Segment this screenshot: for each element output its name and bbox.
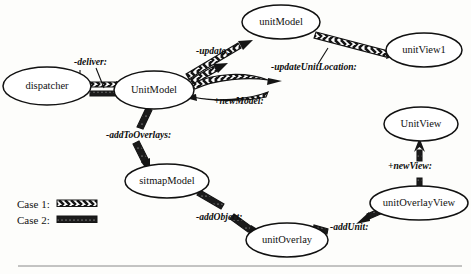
node-dispatcher-label: dispatcher bbox=[25, 80, 69, 91]
node-unitoverlayview-label: unitOverlayView bbox=[383, 197, 456, 208]
legend-item-case-1-label: Case 1: bbox=[17, 198, 50, 210]
edge-label-addobject: -addObject: bbox=[196, 211, 242, 222]
edge-label-newview: +newView: bbox=[388, 160, 432, 171]
node-sitmapmodel[interactable]: sitmapModel bbox=[125, 164, 209, 198]
node-unitview[interactable]: UnitView bbox=[384, 107, 458, 141]
interaction-diagram: dispatcher UnitModel unitModel unitView1… bbox=[0, 0, 471, 274]
legend-swatch-case-1 bbox=[57, 200, 97, 207]
legend-item-case-1: Case 1: bbox=[17, 198, 97, 210]
edge-label-deliver: -deliver: bbox=[74, 56, 107, 67]
node-unitoverlay[interactable]: unitOverlay bbox=[246, 223, 328, 257]
node-unitoverlay-label: unitOverlay bbox=[262, 234, 313, 245]
node-unitmodel-class-label: UnitModel bbox=[131, 84, 177, 95]
edge-label-addunit: -addUnit: bbox=[330, 221, 368, 232]
node-unitmodel-instance[interactable]: unitModel bbox=[242, 5, 320, 39]
node-unitoverlayview[interactable]: unitOverlayView bbox=[370, 186, 468, 220]
node-dispatcher[interactable]: dispatcher bbox=[3, 67, 91, 105]
legend-item-case-2-label: Case 2: bbox=[17, 214, 50, 226]
legend: Case 1: Case 2: bbox=[17, 198, 97, 226]
node-unitview-label: UnitView bbox=[401, 118, 442, 129]
edge-label-update: -update: bbox=[196, 45, 229, 56]
node-unitmodel-class[interactable]: UnitModel bbox=[114, 71, 194, 109]
node-sitmapmodel-label: sitmapModel bbox=[139, 175, 194, 186]
legend-item-case-2: Case 2: bbox=[17, 214, 97, 226]
edge-unitmodel-sitmapmodel bbox=[133, 108, 152, 174]
node-unitview1-label: unitView1 bbox=[402, 44, 446, 55]
diagram-canvas: dispatcher UnitModel unitModel unitView1… bbox=[0, 0, 471, 274]
edge-label-newmodel: +newModel: bbox=[214, 95, 264, 106]
legend-swatch-case-2 bbox=[57, 216, 97, 223]
node-unitview1[interactable]: unitView1 bbox=[386, 33, 462, 67]
node-unitmodel-instance-label: unitModel bbox=[259, 16, 303, 27]
edge-label-updateunitlocation: -updateUnitLocation: bbox=[271, 61, 357, 72]
edge-label-addtooverlays: -addToOverlays: bbox=[106, 129, 171, 140]
